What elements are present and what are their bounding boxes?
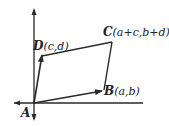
- label-b: B(a,b): [103, 84, 140, 98]
- label-c: C(a+c,b+d): [103, 25, 169, 39]
- label-a: A: [20, 106, 30, 120]
- vector-ab: [34, 91, 102, 103]
- side-bc: [104, 42, 112, 90]
- vector-ad: [34, 55, 42, 103]
- parallelogram-diagram: D(c,d) C(a+c,b+d) B(a,b) A: [0, 0, 169, 126]
- label-d: D(c,d): [32, 39, 69, 53]
- y-axis: [32, 8, 37, 121]
